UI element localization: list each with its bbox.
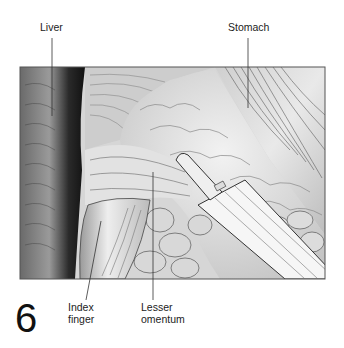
- label-lesser-omentum: Lesser omentum: [141, 301, 185, 325]
- label-index-finger: Index finger: [68, 301, 94, 325]
- illustration: [0, 0, 344, 348]
- liver-shape: [20, 67, 85, 279]
- label-liver: Liver: [40, 21, 63, 33]
- label-stomach: Stomach: [228, 21, 269, 33]
- anatomical-figure: Liver Stomach Index finger Lesser omentu…: [0, 0, 344, 348]
- illustration-body: [20, 67, 330, 279]
- figure-number: 6: [15, 298, 37, 338]
